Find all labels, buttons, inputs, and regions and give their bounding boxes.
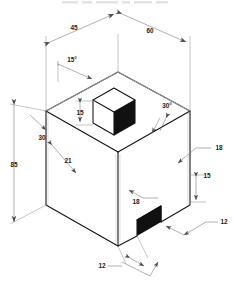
- isometric-drawing-canvas: 45 60 15° 30° 15: [0, 0, 234, 284]
- top-cropped-text-artifact: [62, 1, 168, 4]
- dimension-label-15-door: 15: [203, 172, 211, 179]
- dimension-label-21: 21: [64, 157, 72, 164]
- dimension-gable-left: 30: [30, 115, 46, 141]
- dimension-roof-left-angle: 15°: [58, 56, 92, 82]
- dimension-label-15deg: 15°: [67, 56, 77, 63]
- dimension-base-front-width: 12: [98, 236, 158, 276]
- dimension-label-30deg: 30°: [162, 102, 172, 109]
- dimension-label-45: 45: [70, 24, 78, 31]
- isometric-house-drawing: 45 60 15° 30° 15: [0, 0, 234, 284]
- dimension-label-18-lower: 18: [132, 198, 140, 205]
- dimension-label-12-base: 12: [98, 262, 106, 269]
- dimension-label-60: 60: [146, 27, 154, 34]
- dimension-label-30: 30: [38, 134, 46, 141]
- dimension-label-12-door: 12: [220, 218, 228, 225]
- dimension-door-width: 12: [166, 218, 228, 235]
- dimension-overall-height: 85: [10, 104, 46, 224]
- dimension-label-chimney-15: 15: [76, 109, 84, 116]
- dimension-door-height: 15: [190, 172, 211, 202]
- dimension-label-18-upper: 18: [215, 144, 223, 151]
- dimension-label-85: 85: [10, 161, 18, 168]
